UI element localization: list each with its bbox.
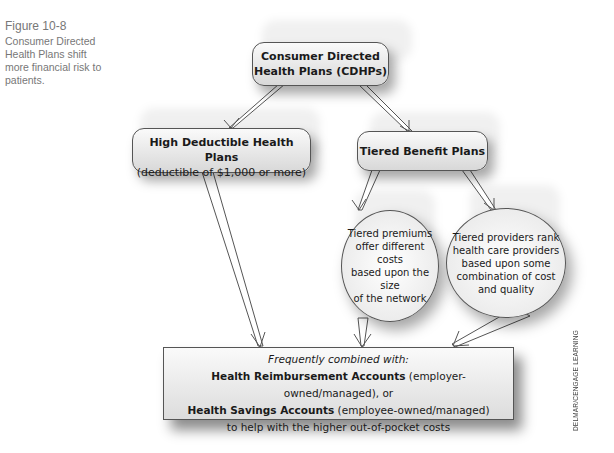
combined-intro: Frequently combined with: xyxy=(164,351,513,368)
tiered-providers-bubble: Tiered providers rank health care provid… xyxy=(446,208,566,318)
tiered-premiums-line: offer different costs xyxy=(342,240,438,266)
tiered-premiums-line: based upon the size xyxy=(342,266,438,292)
tiered-providers-line: Tiered providers rank xyxy=(453,231,560,244)
combined-closing: to help with the higher out-of-pocket co… xyxy=(164,419,513,436)
tiered-premiums-bubble: Tiered premiums offer different costs ba… xyxy=(341,210,439,322)
hsa-label: Health Savings Accounts xyxy=(188,404,335,416)
tiered-providers-line: health care providers xyxy=(453,244,560,257)
tiered-benefit-title: Tiered Benefit Plans xyxy=(358,144,487,159)
hra-label: Health Reimbursement Accounts xyxy=(211,370,405,382)
hdhp-title: High Deductible Health Plans xyxy=(133,135,310,165)
hsa-line: Health Savings Accounts (employee-owned/… xyxy=(164,402,513,419)
tiered-providers-line: based upon some xyxy=(453,257,560,270)
cdhp-line1: Consumer Directed xyxy=(253,49,388,64)
hdhp-box: High Deductible Health Plans (deductible… xyxy=(132,128,311,173)
tiered-premiums-line: Tiered premiums xyxy=(342,227,438,240)
combined-accounts-box: Frequently combined with: Health Reimbur… xyxy=(163,347,514,420)
hdhp-subtitle: (deductible of $1,000 or more) xyxy=(133,165,310,180)
hsa-detail: (employee-owned/managed) xyxy=(334,404,489,416)
image-credit: DELMAR/CENGAGE LEARNING xyxy=(572,330,579,431)
cdhp-line2: Health Plans (CDHPs) xyxy=(253,64,388,79)
tiered-benefit-box: Tiered Benefit Plans xyxy=(357,131,488,171)
cdhp-box: Consumer Directed Health Plans (CDHPs) xyxy=(252,42,389,86)
hra-line: Health Reimbursement Accounts (employer-… xyxy=(164,368,513,402)
tiered-providers-line: and quality xyxy=(453,283,560,296)
tiered-premiums-line: of the network xyxy=(342,292,438,305)
tiered-providers-line: combination of cost xyxy=(453,270,560,283)
